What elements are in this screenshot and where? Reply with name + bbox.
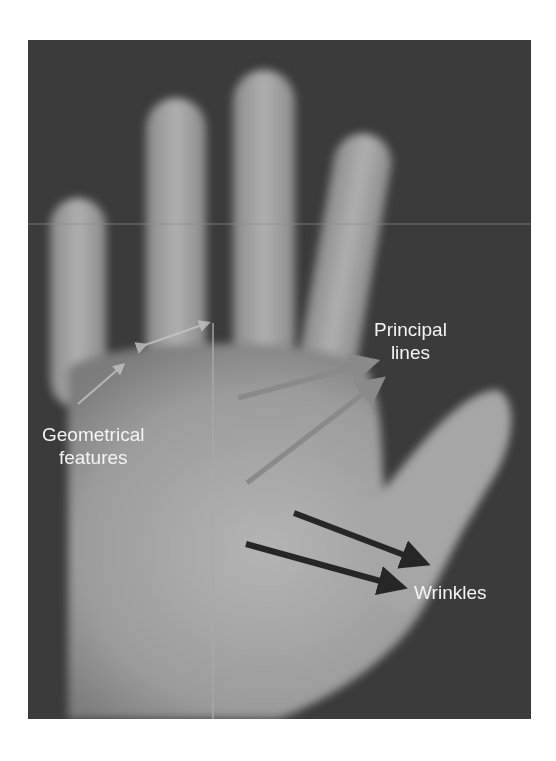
label-line-1: Geometrical xyxy=(42,423,144,446)
palm-photo: Principal lines Geometrical features Wri… xyxy=(28,40,531,719)
label-line-2: features xyxy=(42,446,144,469)
palm-illustration xyxy=(28,40,531,719)
wrinkles-label: Wrinkles xyxy=(414,581,487,604)
principal-lines-label: Principal lines xyxy=(374,318,447,364)
geometrical-features-label: Geometrical features xyxy=(42,423,144,469)
label-line-1: Principal xyxy=(374,318,447,341)
hand-shape xyxy=(50,70,511,719)
label-line-2: lines xyxy=(374,341,447,364)
